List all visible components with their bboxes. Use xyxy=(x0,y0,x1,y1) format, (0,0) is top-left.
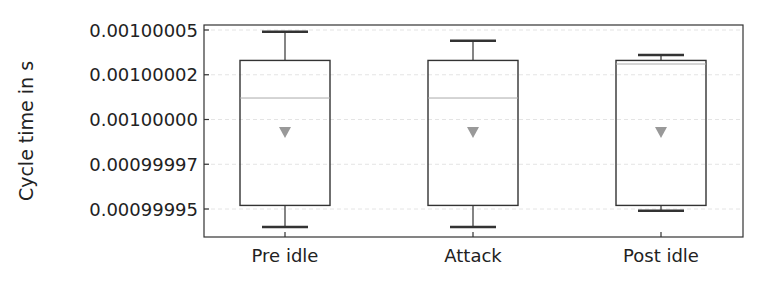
box-plot: 0.000999950.000999970.001000000.00100002… xyxy=(0,0,777,282)
y-tick-label: 0.00099995 xyxy=(89,199,198,220)
mean-marker-icon xyxy=(467,127,479,138)
box-post-idle xyxy=(616,55,706,211)
y-tick-label: 0.00099997 xyxy=(89,154,198,175)
x-tick-label: Post idle xyxy=(623,245,699,266)
box-attack xyxy=(428,41,518,227)
mean-marker-icon xyxy=(279,127,291,138)
x-tick-label: Pre idle xyxy=(252,245,319,266)
y-tick-label: 0.00100002 xyxy=(89,64,198,85)
y-tick-label: 0.00100000 xyxy=(89,109,198,130)
y-axis-label: Cycle time in s xyxy=(15,61,37,201)
y-axis: 0.000999950.000999970.001000000.00100002… xyxy=(89,20,209,220)
box-pre-idle xyxy=(240,32,330,227)
boxes xyxy=(240,32,706,227)
y-tick-label: 0.00100005 xyxy=(89,20,198,41)
x-tick-label: Attack xyxy=(444,245,502,266)
mean-marker-icon xyxy=(655,127,667,138)
